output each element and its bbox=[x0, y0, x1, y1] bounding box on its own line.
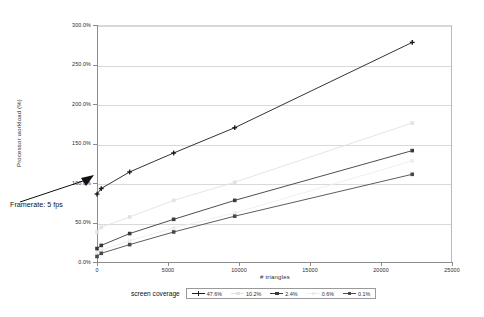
x-tick-mark bbox=[239, 262, 240, 266]
y-tick-label: 50.0% bbox=[58, 219, 91, 225]
legend-box: 47.6%10.2%2.4%0.6%0.1% bbox=[186, 288, 376, 299]
y-tick-mark bbox=[93, 25, 97, 26]
legend-swatch-icon bbox=[307, 290, 320, 297]
legend-item-2[interactable]: 2.4% bbox=[270, 290, 297, 297]
plot-area bbox=[97, 25, 452, 262]
gridline bbox=[97, 66, 451, 67]
legend-label: 0.1% bbox=[358, 291, 370, 297]
x-tick-label: 25000 bbox=[438, 267, 466, 273]
y-axis-line bbox=[97, 25, 98, 263]
y-tick-label: 250.0% bbox=[58, 61, 91, 67]
x-tick-mark bbox=[310, 262, 311, 266]
x-tick-label: 0 bbox=[83, 267, 111, 273]
x-tick-mark bbox=[168, 262, 169, 266]
framerate-annotation: Framerate: 5 fps bbox=[10, 200, 63, 209]
y-tick-label: 150.0% bbox=[58, 140, 91, 146]
y-tick-mark bbox=[93, 104, 97, 105]
legend-item-4[interactable]: 0.1% bbox=[343, 290, 370, 297]
x-tick-label: 10000 bbox=[225, 267, 253, 273]
gridline bbox=[97, 105, 451, 106]
x-tick-mark bbox=[97, 262, 98, 266]
gridline bbox=[97, 26, 451, 27]
x-axis-line bbox=[97, 262, 453, 263]
x-tick-label: 15000 bbox=[296, 267, 324, 273]
legend-swatch-icon bbox=[231, 290, 244, 297]
legend-swatch-icon bbox=[343, 290, 356, 297]
legend-title: screen coverage bbox=[131, 290, 180, 297]
legend-label: 0.6% bbox=[322, 291, 334, 297]
gridline bbox=[97, 184, 451, 185]
legend: screen coverage 47.6%10.2%2.4%0.6%0.1% bbox=[131, 288, 376, 299]
x-tick-label: 5000 bbox=[154, 267, 182, 273]
y-tick-mark bbox=[93, 144, 97, 145]
x-axis-title: # triangles bbox=[97, 274, 453, 280]
y-tick-mark bbox=[93, 223, 97, 224]
y-tick-mark bbox=[93, 65, 97, 66]
legend-item-1[interactable]: 10.2% bbox=[231, 290, 261, 297]
legend-label: 47.6% bbox=[207, 291, 222, 297]
legend-label: 10.2% bbox=[246, 291, 261, 297]
legend-swatch-icon bbox=[270, 290, 283, 297]
x-tick-label: 20000 bbox=[367, 267, 395, 273]
x-tick-mark bbox=[381, 262, 382, 266]
chart-container: 0.0%50.0%100.0%150.0%200.0%250.0%300.0% … bbox=[0, 0, 484, 317]
legend-item-3[interactable]: 0.6% bbox=[307, 290, 334, 297]
y-tick-label: 200.0% bbox=[58, 101, 91, 107]
x-tick-mark bbox=[452, 262, 453, 266]
legend-item-0[interactable]: 47.6% bbox=[192, 290, 222, 297]
gridline bbox=[97, 224, 451, 225]
legend-label: 2.4% bbox=[285, 291, 297, 297]
y-tick-label: 300.0% bbox=[58, 22, 91, 28]
y-tick-label: 0.0% bbox=[58, 259, 91, 265]
legend-swatch-icon bbox=[192, 290, 205, 297]
gridline bbox=[97, 145, 451, 146]
